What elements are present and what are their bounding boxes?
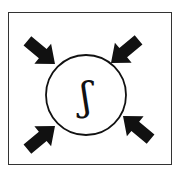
arrow-top-right-icon [103,30,147,73]
diagram-canvas: ʃ [0,0,182,177]
center-symbol: ʃ [77,73,95,119]
